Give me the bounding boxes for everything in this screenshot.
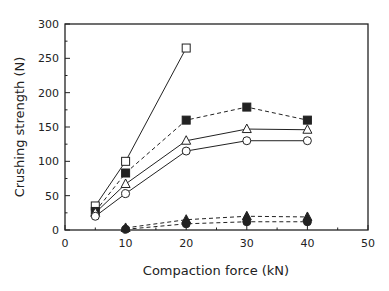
x-tick-label: 40 (300, 237, 314, 250)
x-axis-label: Compaction force (kN) (143, 263, 289, 278)
open-circle-marker (303, 137, 311, 145)
filled-circle-marker (303, 218, 311, 226)
x-tick-label: 10 (119, 237, 133, 250)
filled-square-marker (303, 116, 311, 124)
series-line (95, 141, 307, 217)
open-triangle-marker (242, 124, 251, 133)
chart: 01020304050 050100150200250300 Compactio… (0, 0, 389, 291)
x-axis-ticks: 01020304050 (62, 225, 376, 250)
series-filled-circle (122, 218, 312, 234)
filled-square-marker (243, 103, 251, 111)
filled-circle-marker (122, 225, 130, 233)
y-tick-label: 250 (38, 52, 59, 65)
open-square-marker (122, 157, 130, 165)
open-square-marker (182, 44, 190, 52)
data-series (91, 44, 312, 233)
series-open-circle (91, 137, 311, 221)
open-triangle-marker (303, 125, 312, 134)
filled-circle-marker (243, 218, 251, 226)
y-tick-label: 150 (38, 121, 59, 134)
open-circle-marker (122, 190, 130, 198)
x-tick-label: 20 (179, 237, 193, 250)
y-tick-label: 100 (38, 155, 59, 168)
y-axis-label: Crushing strength (N) (12, 57, 27, 198)
y-tick-label: 0 (52, 224, 59, 237)
x-tick-label: 50 (361, 237, 375, 250)
open-triangle-marker (121, 179, 130, 188)
open-circle-marker (182, 147, 190, 155)
filled-square-marker (122, 169, 130, 177)
y-tick-label: 50 (45, 190, 59, 203)
filled-circle-marker (182, 220, 190, 228)
open-circle-marker (243, 137, 251, 145)
y-tick-label: 300 (38, 18, 59, 31)
y-tick-label: 200 (38, 87, 59, 100)
series-open-square (91, 44, 190, 210)
x-tick-label: 0 (62, 237, 69, 250)
series-line (95, 48, 186, 206)
x-tick-label: 30 (240, 237, 254, 250)
filled-square-marker (182, 116, 190, 124)
open-circle-marker (91, 212, 99, 220)
